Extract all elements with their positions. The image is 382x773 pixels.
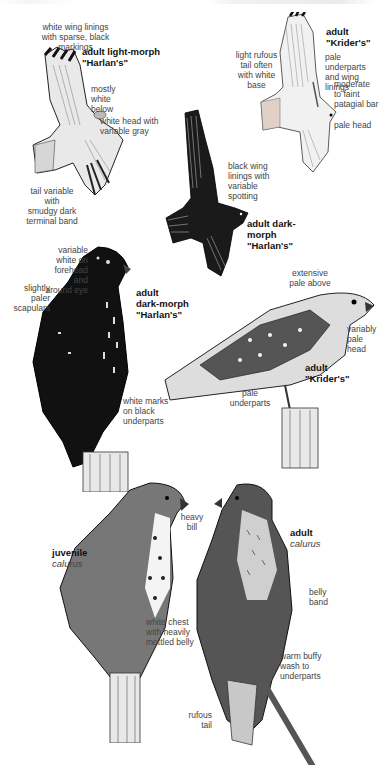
title-adult-calurus: adult calurus: [290, 516, 340, 560]
subtitle-adult-calurus: calurus: [290, 538, 340, 549]
label-light-rufous-tail: light rufous tail often with white base: [229, 50, 284, 90]
title-kriders-flight: adult "Krider's": [326, 26, 376, 48]
label-rufous-tail: rufous tail: [180, 710, 212, 730]
label-variably-pale-head: variably pale head: [347, 324, 382, 354]
label-pale-underparts: pale underparts: [225, 388, 275, 408]
title-kriders-perched: adult "Krider's": [305, 362, 355, 384]
subtitle-juvenile-calurus: calurus: [52, 558, 102, 569]
kriders-perched-illustration: [160, 280, 376, 490]
label-patagial-bar: moderate to faint patagial bar: [334, 79, 379, 109]
cropped-header-line: [0, 0, 376, 4]
label-tail-variable: tail variable with smudgy dark terminal …: [22, 186, 82, 226]
juvenile-calurus-illustration: [55, 478, 195, 743]
label-warm-buffy-wash: warm buffy wash to underparts: [280, 651, 340, 681]
label-mostly-white-below: mostly white below: [91, 84, 131, 114]
title-light-harlans: adult light-morph "Harlan's": [82, 46, 192, 68]
title-juvenile-text: juvenile: [52, 547, 87, 558]
label-paler-scapulars: slightly paler scapulars: [10, 283, 50, 313]
title-adult-text: adult: [290, 527, 313, 538]
label-black-wing-linings: black wing linings with variable spottin…: [228, 161, 283, 201]
title-juvenile-calurus: juvenile calurus: [52, 536, 102, 580]
label-pale-head: pale head: [334, 120, 374, 130]
label-belly-band: belly band: [309, 587, 349, 607]
title-dark-harlans-flight: adult dark- morph "Harlan's": [247, 218, 302, 251]
label-extensive-pale-above: extensive pale above: [280, 268, 340, 288]
